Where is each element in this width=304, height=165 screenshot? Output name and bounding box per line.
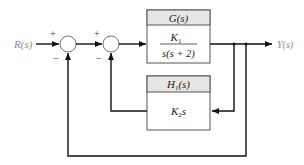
sum2-plus-sign: +	[94, 28, 100, 39]
h1-block-title: H1(s)	[166, 78, 190, 92]
block-diagram: R(s) + − + − G(s) K1 s(s + 2) Y(s) H1(s)…	[0, 0, 304, 165]
sum1-minus-sign: −	[53, 53, 59, 64]
summing-junction-1	[60, 36, 76, 52]
sum2-minus-sign: −	[96, 53, 102, 64]
g-block-title: G(s)	[169, 12, 189, 25]
summing-junction-2	[103, 36, 119, 52]
h1-block-body: K2s	[170, 105, 186, 119]
output-label: Y(s)	[277, 39, 294, 51]
forward-block-g: G(s) K1 s(s + 2)	[147, 10, 210, 63]
sum1-plus-sign: +	[50, 28, 56, 39]
g-denominator: s(s + 2)	[162, 48, 195, 60]
inner-feedback-to-sum2-arrow	[111, 53, 147, 111]
inner-feedback-to-h-arrow	[212, 44, 234, 111]
feedback-block-h1: H1(s) K2s	[147, 76, 210, 130]
input-label: R(s)	[13, 38, 33, 51]
